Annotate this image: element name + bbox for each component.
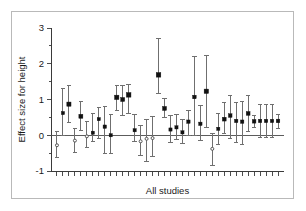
marker-filled-square — [67, 102, 71, 106]
marker-filled-square — [193, 95, 197, 99]
data-point — [73, 129, 77, 152]
data-point — [120, 85, 124, 115]
marker-filled-square — [252, 120, 256, 124]
y-tick-label: 1 — [39, 94, 44, 105]
data-point — [276, 115, 280, 129]
data-point — [61, 89, 65, 135]
marker-filled-square — [61, 111, 64, 114]
figure-container: -10123All studiesEffect size for height — [0, 0, 306, 211]
data-point — [67, 86, 71, 122]
marker-filled-square — [175, 126, 178, 129]
data-point — [174, 115, 178, 140]
data-point — [126, 84, 131, 113]
data-point — [252, 116, 256, 128]
marker-filled-square — [103, 125, 106, 128]
marker-open-circle — [151, 137, 154, 140]
data-point — [240, 101, 244, 144]
marker-filled-square — [79, 114, 83, 118]
plot-frame: -10123All studiesEffect size for height — [11, 11, 294, 199]
marker-filled-square — [270, 119, 273, 122]
marker-filled-square — [246, 112, 250, 116]
data-point — [186, 110, 190, 136]
data-point — [103, 107, 107, 153]
marker-open-circle — [139, 140, 142, 143]
marker-filled-square — [109, 134, 112, 137]
data-point — [198, 106, 202, 141]
x-axis-title: All studies — [146, 185, 190, 196]
marker-open-circle — [145, 137, 148, 140]
data-point — [192, 57, 196, 136]
forest-plot-chart: -10123All studiesEffect size for height — [12, 12, 293, 198]
marker-filled-square — [240, 120, 243, 123]
data-point — [210, 133, 214, 165]
data-point — [144, 119, 148, 161]
marker-filled-square — [121, 98, 125, 102]
y-tick-label: 3 — [39, 22, 44, 33]
marker-filled-square — [97, 118, 100, 121]
marker-open-circle — [73, 139, 76, 142]
marker-filled-square — [163, 106, 167, 110]
marker-open-circle — [55, 144, 58, 147]
data-point — [85, 122, 89, 147]
y-axis-title: Effect size for height — [16, 56, 27, 142]
marker-open-circle — [85, 135, 88, 138]
marker-filled-square — [199, 122, 202, 125]
data-points-group — [55, 38, 280, 165]
data-point — [168, 116, 172, 143]
marker-filled-square — [126, 93, 131, 98]
data-point — [270, 105, 274, 137]
marker-filled-square — [264, 119, 267, 122]
marker-filled-square — [228, 114, 232, 118]
marker-filled-square — [169, 128, 172, 131]
marker-filled-square — [133, 129, 136, 132]
data-point — [258, 105, 262, 137]
marker-open-circle — [211, 147, 214, 150]
marker-filled-square — [187, 120, 190, 123]
marker-filled-square — [235, 119, 238, 122]
data-point — [204, 56, 208, 128]
data-point — [79, 101, 83, 130]
data-point — [222, 102, 226, 133]
y-tick-label: 2 — [39, 58, 44, 69]
marker-filled-square — [115, 95, 119, 99]
marker-filled-square — [204, 89, 208, 93]
data-point — [216, 114, 220, 145]
data-point — [156, 38, 161, 93]
data-point — [138, 125, 142, 155]
y-tick-label: -1 — [36, 165, 44, 176]
marker-filled-square — [181, 131, 184, 134]
marker-filled-square — [276, 119, 280, 123]
data-point — [264, 105, 268, 137]
marker-filled-square — [217, 127, 220, 130]
data-point — [115, 86, 119, 110]
data-point — [228, 95, 232, 139]
y-tick-label: 0 — [39, 130, 44, 141]
marker-filled-square — [156, 73, 161, 78]
data-point — [162, 99, 166, 118]
data-point — [109, 115, 113, 154]
marker-filled-square — [258, 119, 261, 122]
data-point — [234, 102, 238, 142]
data-point — [246, 95, 250, 131]
data-point — [97, 107, 101, 138]
data-point — [150, 117, 154, 157]
marker-filled-square — [222, 117, 226, 121]
marker-filled-square — [91, 131, 94, 134]
data-point — [132, 115, 136, 142]
data-point — [180, 119, 184, 143]
data-point — [91, 113, 95, 142]
